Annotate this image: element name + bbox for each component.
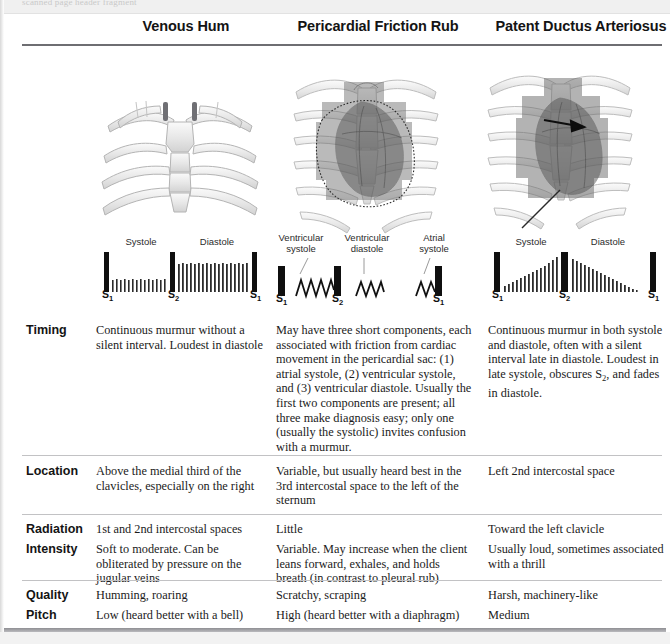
cell-radiation-pericardial-friction-rub: Little [276, 522, 472, 537]
waveform-phase-label-ventricular-systole: Ventricular systole [272, 232, 330, 254]
waveform-phase-label-diastole: Diastole [180, 236, 254, 247]
cell-intensity-patent-ductus-arteriosus: Usually loud, sometimes associated with … [488, 542, 666, 571]
waveform-phase-label-ventricular-diastole: Ventricular diastole [338, 232, 396, 254]
waveform-sound-label-s2: S2 [559, 288, 570, 303]
column-header-pericardial-friction-rub: Pericardial Friction Rub [280, 18, 476, 34]
waveform-venous-hum: Systole Diastole [96, 236, 272, 302]
waveform-sound-label-s1-start: S1 [102, 288, 113, 303]
scan-left-margin [0, 0, 4, 644]
waveform-patent-ductus-arteriosus: Systole Diastole [488, 236, 666, 302]
cell-location-venous-hum: Above the medial third of the clavicles,… [96, 464, 268, 493]
divider-above-quality [22, 580, 662, 581]
table-header-row: Venous Hum Pericardial Friction Rub Pate… [4, 18, 666, 40]
waveform-sound-label-s1-end: S1 [648, 288, 659, 303]
scan-ghost-text: scanned page header fragment [22, 0, 137, 7]
cell-quality-pericardial-friction-rub: Scratchy, scraping [276, 588, 472, 603]
reference-table-page: scanned page header fragment Venous Hum … [0, 0, 670, 644]
column-header-patent-ductus-arteriosus: Patent Ductus Arteriosus [492, 18, 670, 34]
cell-pitch-venous-hum: Low (heard better with a bell) [96, 608, 268, 623]
waveform-sound-label-s2: S2 [168, 288, 179, 303]
waveform-sound-label-s1-start: S1 [492, 288, 503, 303]
illustration-venous-hum-chest [100, 96, 260, 226]
scan-top-margin: scanned page header fragment [0, 0, 670, 14]
cell-pitch-patent-ductus-arteriosus: Medium [488, 608, 666, 623]
waveform-phase-label-systole: Systole [496, 236, 566, 247]
scan-bottom-margin [0, 632, 670, 644]
waveform-phase-label-diastole: Diastole [572, 236, 644, 247]
illustration-patent-ductus-arteriosus-chest [486, 62, 634, 234]
illustration-pericardial-friction-rub-chest [292, 62, 440, 234]
row-label-radiation: Radiation [26, 522, 83, 536]
waveform-sound-label-s1-end: S1 [250, 288, 261, 303]
cell-location-pericardial-friction-rub: Variable, but usually heard best in the … [276, 464, 472, 508]
divider-above-radiation [22, 514, 662, 515]
row-label-timing: Timing [26, 323, 67, 337]
divider-above-location [22, 455, 662, 456]
cell-pitch-pericardial-friction-rub: High (heard better with a diaphragm) [276, 608, 472, 623]
cell-timing-venous-hum: Continuous murmur without a silent inter… [96, 323, 268, 352]
waveform-phase-label-atrial-systole: Atrial systole [408, 232, 460, 254]
cell-quality-patent-ductus-arteriosus: Harsh, machinery-like [488, 588, 666, 603]
row-label-pitch: Pitch [26, 608, 57, 622]
cell-location-patent-ductus-arteriosus: Left 2nd intercostal space [488, 464, 666, 479]
cell-radiation-venous-hum: 1st and 2nd intercostal spaces [96, 522, 268, 537]
row-label-quality: Quality [26, 588, 68, 602]
row-label-location: Location [26, 464, 78, 478]
column-header-venous-hum: Venous Hum [100, 18, 272, 34]
header-divider [22, 44, 662, 46]
waveform-sound-label-s2: S2 [332, 292, 343, 307]
waveform-sound-label-s1-end: S1 [433, 292, 444, 307]
cell-timing-patent-ductus-arteriosus: Continuous murmur in both systole and di… [488, 323, 666, 400]
cell-radiation-patent-ductus-arteriosus: Toward the left clavicle [488, 522, 666, 537]
cell-quality-venous-hum: Humming, roaring [96, 588, 268, 603]
waveform-phase-label-systole: Systole [106, 236, 176, 247]
cell-timing-pericardial-friction-rub: May have three short components, each as… [276, 323, 472, 454]
waveform-sound-label-s1-start: S1 [276, 292, 287, 307]
waveform-pericardial-friction-rub: Ventricular systole Ventricular diastole… [272, 232, 472, 304]
row-label-intensity: Intensity [26, 542, 77, 556]
